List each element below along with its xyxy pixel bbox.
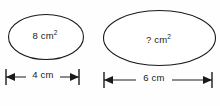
- large-area-exponent: 2: [167, 33, 171, 40]
- small-area-unit-text: cm: [41, 30, 54, 41]
- small-ellipse-group: 8 cm2 4 cm: [0, 0, 100, 106]
- small-area-exponent: 2: [54, 29, 58, 36]
- large-area-unit-text: cm: [154, 34, 167, 45]
- small-ellipse-area-label: 8 cm2: [7, 30, 83, 41]
- large-ellipse-area-label: ? cm2: [102, 34, 215, 45]
- small-width-label: 4 cm: [26, 69, 60, 80]
- large-width-label: 6 cm: [136, 72, 172, 83]
- large-ellipse-group: ? cm2 6 cm: [100, 0, 220, 106]
- geometry-figure: 8 cm2 4 cm ? cm2: [0, 0, 220, 106]
